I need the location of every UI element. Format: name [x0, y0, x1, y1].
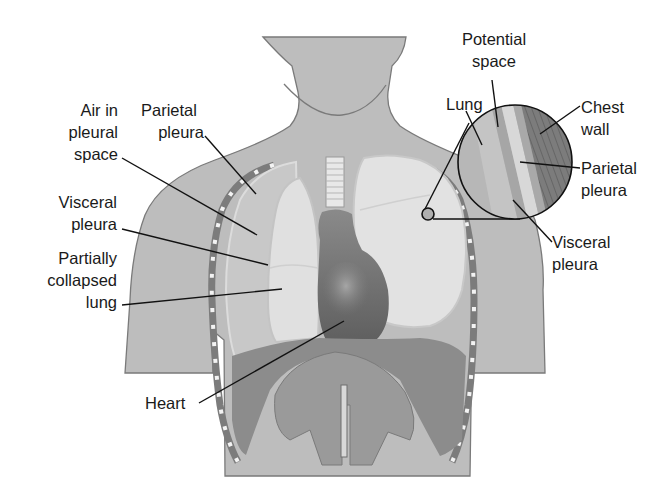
pneumothorax-diagram: Air in pleural space Parietal pleura Vis…: [0, 0, 668, 499]
label-parietal-pleura-left: Parietal pleura: [134, 99, 204, 143]
label-visceral-pleura-left: Visceral pleura: [59, 191, 117, 235]
zoom-marker-circle: [422, 208, 434, 220]
label-air-in-pleural-space: Air in pleural space: [68, 99, 118, 165]
label-lung: Lung: [446, 93, 483, 115]
label-chest-wall: Chest wall: [581, 96, 624, 140]
label-potential-space: Potential space: [454, 28, 534, 72]
trachea: [326, 157, 344, 207]
label-heart: Heart: [145, 392, 185, 414]
label-parietal-pleura-right: Parietal pleura: [581, 157, 637, 201]
label-visceral-pleura-right: Visceral pleura: [552, 231, 610, 275]
label-partially-collapsed-lung: Partially collapsed lung: [47, 247, 117, 313]
